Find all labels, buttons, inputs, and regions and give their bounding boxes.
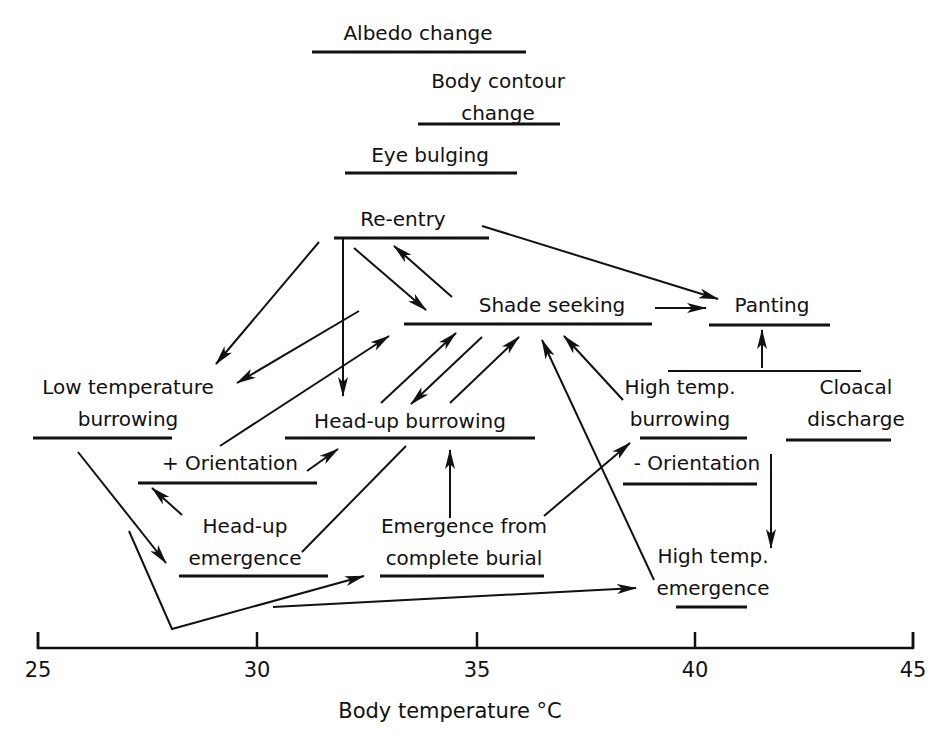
behaviour-high-temp-burrowing: High temp.burrowing — [624, 375, 747, 438]
behaviour-shade-seeking: Shade seeking — [404, 293, 652, 324]
behaviour-label: complete burial — [386, 546, 543, 570]
behaviour-high-temp-emergence: High temp.emergence — [657, 544, 770, 607]
axis-ticks: 2530354045 — [25, 632, 927, 682]
tick-label: 40 — [682, 658, 709, 682]
behaviour-label: Low temperature — [42, 375, 213, 399]
behavioural-thermoregulation-diagram: Albedo changeBody contourchangeEye bulgi… — [0, 0, 943, 743]
arrow-head-up-burrowing-to-shade-seeking-2 — [450, 337, 519, 403]
behaviour-head-up-burrowing: Head-up burrowing — [285, 409, 535, 438]
behaviour-label: Panting — [735, 293, 810, 317]
arrow-shade-seeking-to-head-up-burrowing — [411, 337, 482, 404]
tick-label: 45 — [900, 658, 927, 682]
behaviour-label: Head-up burrowing — [314, 409, 506, 433]
behaviour-label: discharge — [807, 407, 904, 431]
behaviour-label: Body contour — [431, 69, 566, 93]
behaviour-head-up-emergence: Head-upemergence — [179, 514, 328, 576]
arrow-head-up-emergence-to-plus-orientation — [152, 488, 182, 515]
tick-label: 25 — [25, 658, 52, 682]
arrow-shade-seeking-to-low-temp-burrowing — [237, 311, 359, 383]
behaviour-label: emergence — [189, 546, 302, 570]
behaviour-label: burrowing — [78, 407, 179, 431]
behaviour-label: Cloacal — [820, 375, 893, 399]
behaviour-label: Albedo change — [343, 21, 492, 45]
arrow-high-temp-burrowing-to-shade-seeking — [564, 336, 623, 400]
behaviour-label: + Orientation — [162, 451, 298, 475]
behaviour-plus-orientation: + Orientation — [138, 451, 317, 483]
axis-title: Body temperature °C — [338, 699, 562, 723]
arrow-reentry-to-low-temp-burrowing — [216, 242, 319, 364]
behaviour-labels: Albedo changeBody contourchangeEye bulgi… — [33, 21, 905, 607]
behaviour-low-temp-burrowing: Low temperatureburrowing — [33, 375, 214, 438]
behaviour-label: Eye bulging — [371, 143, 489, 167]
behaviour-label: emergence — [657, 576, 770, 600]
behaviour-label: Emergence from — [381, 514, 547, 538]
behaviour-emergence-complete-burial: Emergence fromcomplete burial — [380, 514, 547, 576]
behaviour-label: High temp. — [657, 544, 768, 568]
behaviour-re-entry: Re-entry — [334, 207, 489, 238]
arrow-low-temp-burrowing-to-head-up-emergence — [78, 452, 166, 563]
arrow-to-high-temp-emergence — [273, 588, 636, 607]
behaviour-body-contour: Body contourchange — [418, 69, 566, 125]
behaviour-minus-orientation: - Orientation — [623, 451, 760, 484]
x-axis: 2530354045 Body temperature °C — [25, 632, 927, 723]
behaviour-label: High temp. — [624, 375, 735, 399]
arrow-plus-orientation-to-head-up-burrowing — [307, 449, 338, 471]
behaviour-cloacal-discharge: Cloacaldischarge — [786, 375, 905, 440]
behaviour-albedo: Albedo change — [312, 21, 526, 52]
arrow-reentry-to-shade-seeking — [354, 248, 426, 310]
tick-label: 35 — [464, 658, 491, 682]
behaviour-label: Head-up — [203, 514, 288, 538]
arrow-emergence-burial-to-minus-orientation — [544, 443, 630, 516]
arrow-reentry-to-panting — [482, 226, 718, 299]
behaviour-label: Re-entry — [360, 207, 446, 231]
arrow-head-up-burrowing-to-shade-seeking — [381, 333, 456, 403]
behaviour-label: burrowing — [630, 407, 731, 431]
behaviour-label: change — [461, 101, 535, 125]
behaviour-label: Shade seeking — [479, 293, 626, 317]
tick-label: 30 — [244, 658, 271, 682]
behaviour-eye-bulging: Eye bulging — [345, 143, 517, 173]
behaviour-label: - Orientation — [634, 451, 760, 475]
behaviour-panting: Panting — [709, 293, 830, 325]
axis-line — [38, 632, 913, 648]
